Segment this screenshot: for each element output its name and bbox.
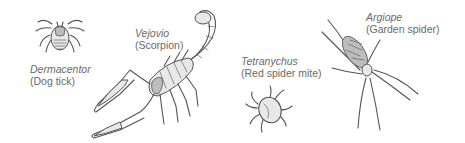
label-dermacentor: Dermacentor (Dog tick): [30, 63, 91, 87]
genus-name: Tetranychus: [241, 55, 322, 67]
label-scorpion: Vejovio (Scorpion): [135, 27, 183, 51]
genus-name: Dermacentor: [30, 63, 91, 75]
garden-spider-drawing: [322, 20, 418, 130]
dog-tick-drawing: [36, 20, 84, 52]
arachnid-illustration: Dermacentor (Dog tick) Vejovio (Scorpion…: [0, 0, 465, 143]
spider-mite-drawing: [246, 86, 292, 132]
label-tetranychus: Tetranychus (Red spider mite): [241, 55, 322, 79]
genus-name: Vejovio: [135, 27, 183, 39]
common-name: (Red spider mite): [241, 67, 322, 79]
common-name: (Garden spider): [366, 23, 440, 35]
common-name: (Scorpion): [135, 39, 183, 51]
common-name: (Dog tick): [30, 75, 91, 87]
label-argiope: Argiope (Garden spider): [366, 11, 440, 35]
genus-name: Argiope: [366, 11, 440, 23]
